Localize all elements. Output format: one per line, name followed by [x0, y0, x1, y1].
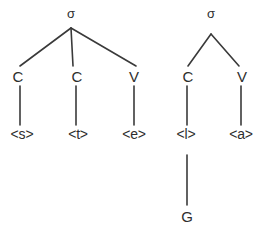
right-branch-1: [188, 34, 211, 66]
right-tree-terminal-a: <a>: [229, 127, 253, 141]
left-branch-1: [20, 28, 71, 66]
tree-lines-svg: [0, 0, 266, 232]
right-tree-node-c: C: [183, 69, 194, 84]
right-tree-node-v: V: [237, 69, 247, 84]
left-tree-branches: [20, 28, 136, 66]
left-tree-terminal-s: <s>: [11, 127, 34, 141]
left-branch-2: [71, 28, 73, 66]
left-tree-node-c1: C: [13, 69, 24, 84]
right-tree-node-g: G: [181, 209, 193, 224]
right-tree-branches: [188, 34, 239, 66]
syllable-structure-diagram: σ C C V <s> <t> <e> σ C V <l> <a> G: [0, 0, 266, 232]
right-branch-2: [211, 34, 239, 66]
right-tree-stems: [187, 86, 241, 125]
left-branch-3: [71, 28, 136, 66]
right-tree-root-sigma: σ: [207, 7, 215, 20]
left-tree-root-sigma: σ: [67, 7, 75, 20]
left-tree-terminal-t: <t>: [68, 127, 88, 141]
right-tree-terminal-l: <l>: [177, 127, 196, 141]
left-tree-terminal-e: <e>: [122, 127, 146, 141]
left-tree-node-v: V: [129, 69, 139, 84]
left-tree-node-c2: C: [72, 69, 83, 84]
left-tree-stems: [20, 86, 134, 125]
